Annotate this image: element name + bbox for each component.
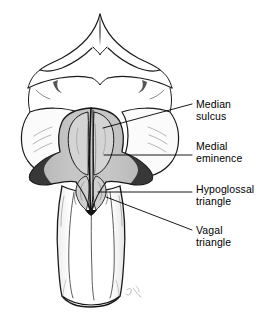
artist-signature — [126, 286, 141, 297]
label-hypoglossal-triangle: Hypoglossal triangle — [196, 183, 254, 207]
cerebellum-cut-surface — [28, 14, 172, 112]
label-medial-eminence-line2: eminence — [196, 152, 242, 164]
label-median-sulcus: Median sulcus — [196, 98, 231, 122]
label-hypoglossal-triangle-line2: triangle — [196, 195, 254, 207]
label-median-sulcus-line1: Median — [196, 98, 231, 110]
label-medial-eminence-line1: Medial — [196, 140, 228, 152]
anatomical-figure: Median sulcus Medial eminence Hypoglossa… — [0, 0, 269, 323]
label-hypoglossal-triangle-line1: Hypoglossal — [196, 183, 254, 195]
label-median-sulcus-line2: sulcus — [196, 110, 231, 122]
label-vagal-triangle: Vagal triangle — [196, 224, 231, 248]
label-medial-eminence: Medial eminence — [196, 140, 242, 164]
label-vagal-triangle-line1: Vagal — [196, 224, 223, 236]
label-vagal-triangle-line2: triangle — [196, 236, 231, 248]
